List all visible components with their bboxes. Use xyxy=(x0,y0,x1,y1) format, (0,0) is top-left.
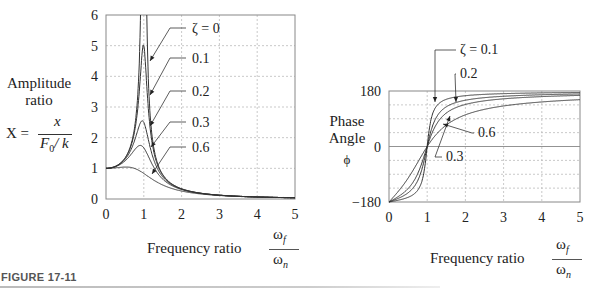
x-tick-label: 0 xyxy=(386,210,393,225)
grid xyxy=(106,15,295,199)
annotation-label: 0.2 xyxy=(192,84,210,99)
x-tick-label: 0 xyxy=(103,207,110,222)
curve-zeta-0.6 xyxy=(389,100,580,202)
annotation-label: 0.6 xyxy=(478,125,496,140)
x-tick-label: 2 xyxy=(462,210,469,225)
y-tick-label: 0 xyxy=(374,140,381,155)
y-tick-label: 5 xyxy=(91,39,98,54)
y-tick-label: 6 xyxy=(91,8,98,23)
annotation-label: 0.6 xyxy=(192,140,210,155)
annotation-label: 0.1 xyxy=(192,51,210,66)
annotation-label: 0.2 xyxy=(460,66,478,81)
x-tick-label: 4 xyxy=(538,210,545,225)
amplitude-ratio-chart: 0123450123456ζ = 00.10.20.30.6 xyxy=(0,0,300,240)
amplitude-xlabel-text: Frequency ratio xyxy=(147,240,242,257)
arrowhead-icon xyxy=(433,97,437,102)
y-tick-label: 180 xyxy=(360,84,381,99)
annotation-arrow xyxy=(150,28,170,61)
annotation-label: ζ = 0 xyxy=(192,21,220,36)
x-tick-label: 5 xyxy=(292,207,299,222)
figure-label: FIGURE 17-11 xyxy=(1,271,77,283)
phase-xlabel: Frequency ratio ωf ωn xyxy=(430,238,590,282)
x-tick-label: 3 xyxy=(500,210,507,225)
phase-xlabel-text: Frequency ratio xyxy=(430,250,525,267)
curve-zeta-0.3 xyxy=(389,95,580,202)
grid xyxy=(389,91,580,202)
y-tick-label: 1 xyxy=(91,161,98,176)
amplitude-xfrac-den: ωn xyxy=(273,251,288,270)
x-tick-label: 2 xyxy=(178,207,185,222)
x-tick-label: 1 xyxy=(424,210,431,225)
x-tick-label: 4 xyxy=(254,207,261,222)
amplitude-xlabel: Frequency ratio ωf ωn xyxy=(147,228,307,272)
annotation-label: 0.3 xyxy=(192,115,210,130)
curve-zeta-0 xyxy=(106,0,143,168)
phase-angle-chart: 012345−1800180ζ = 0.10.20.30.6 xyxy=(300,0,601,240)
arrowhead-icon xyxy=(150,56,154,61)
phase-xfrac-den: ωn xyxy=(556,261,571,280)
x-tick-label: 3 xyxy=(216,207,223,222)
curve-zeta-0.2 xyxy=(389,94,580,202)
annotation-label: 0.3 xyxy=(446,149,464,164)
figure-rule xyxy=(0,286,440,288)
amplitude-xfrac-num: ωf xyxy=(273,226,286,245)
annotation-arrow xyxy=(150,91,170,126)
y-tick-label: 0 xyxy=(91,192,98,207)
phase-xfrac-num: ωf xyxy=(556,236,569,255)
y-tick-label: 2 xyxy=(91,131,98,146)
y-tick-label: 3 xyxy=(91,100,98,115)
y-tick-label: −180 xyxy=(352,195,381,210)
arrowhead-icon xyxy=(152,169,157,174)
x-tick-label: 5 xyxy=(577,210,584,225)
y-tick-label: 4 xyxy=(91,69,98,84)
x-tick-label: 1 xyxy=(140,207,147,222)
arrowhead-icon xyxy=(454,97,458,102)
phase-xfrac-bar xyxy=(552,259,582,260)
annotation-label: ζ = 0.1 xyxy=(460,42,498,57)
amplitude-xfrac-bar xyxy=(269,249,299,250)
